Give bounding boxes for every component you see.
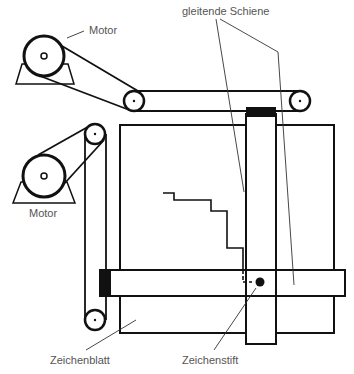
label-motor-left: Motor: [29, 207, 57, 219]
left-motor: [13, 155, 75, 203]
horizontal-rail-cap: [100, 270, 111, 296]
left-motor-wheel: [23, 155, 65, 197]
label-pen: Zeichenstift: [182, 354, 238, 366]
plotter-diagram: Motor gleitende Schiene Motor Zeichenbla…: [0, 0, 354, 374]
label-drawing-sheet: Zeichenblatt: [50, 354, 110, 366]
horizontal-sliding-rail: [100, 270, 345, 296]
pen-dot: [256, 278, 265, 287]
left-drive-belt-lower: [64, 140, 104, 184]
top-drive-belt-lower: [40, 76, 132, 111]
motor-top-leader: [67, 31, 84, 38]
label-sliding-rail: gleitende Schiene: [182, 5, 269, 17]
top-motor: [16, 36, 74, 84]
top-motor-wheel: [24, 36, 64, 76]
vertical-sliding-rail: [246, 114, 276, 344]
label-motor-top: Motor: [89, 24, 117, 36]
vertical-rail-cap: [246, 107, 276, 117]
rail-leader-2: [220, 19, 278, 52]
